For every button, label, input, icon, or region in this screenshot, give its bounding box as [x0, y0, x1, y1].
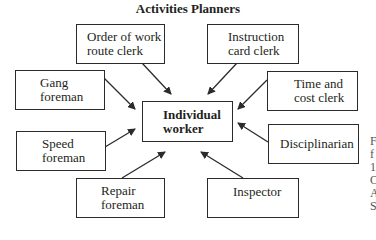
- box-time-cost: Time and cost clerk: [267, 71, 358, 111]
- box-gang-foreman: Gang foreman: [15, 70, 105, 110]
- box-label: Time and: [294, 77, 357, 91]
- arrow-disciplinarian: [238, 123, 268, 142]
- box-label: Speed: [42, 137, 105, 151]
- arrow-speed-foreman: [105, 129, 135, 147]
- cropped-text-fragment: S: [370, 199, 376, 214]
- arrow-repair-foreman: [122, 152, 165, 178]
- arrow-order-of-work: [142, 63, 171, 94]
- box-label: cost clerk: [294, 91, 357, 105]
- box-label: Order of work: [87, 30, 164, 44]
- box-label: Instruction: [228, 30, 298, 44]
- box-label: worker: [163, 122, 232, 136]
- box-inspector: Inspector: [207, 178, 299, 218]
- box-label: route clerk: [87, 44, 164, 58]
- box-label: Inspector: [233, 185, 298, 199]
- box-instruction-card: Instruction card clerk: [207, 24, 299, 64]
- box-label: Individual: [163, 108, 232, 122]
- arrow-instruction-card: [208, 63, 237, 94]
- box-label: foreman: [101, 198, 164, 212]
- box-disciplinarian: Disciplinarian: [268, 124, 359, 164]
- arrow-time-cost: [238, 80, 267, 109]
- box-individual-worker: Individual worker: [142, 101, 233, 142]
- box-label: foreman: [40, 90, 104, 104]
- arrow-gang-foreman: [104, 78, 135, 109]
- box-speed-foreman: Speed foreman: [16, 131, 106, 171]
- box-label: Disciplinarian: [280, 137, 358, 151]
- box-label: foreman: [42, 151, 105, 165]
- box-label: Gang: [40, 76, 104, 90]
- box-label: Repair: [101, 184, 164, 198]
- box-label: card clerk: [228, 44, 298, 58]
- box-repair-foreman: Repair foreman: [76, 178, 165, 218]
- box-order-of-work: Order of work route clerk: [76, 24, 165, 64]
- arrow-inspector: [201, 152, 243, 178]
